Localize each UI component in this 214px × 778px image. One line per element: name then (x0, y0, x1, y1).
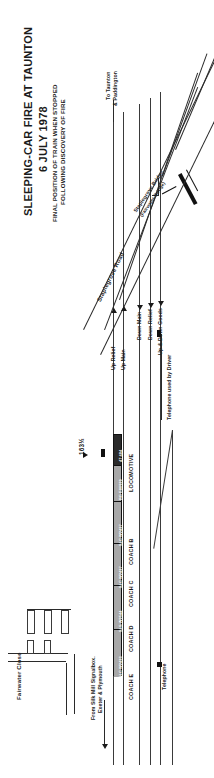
track-arrow-down-main (137, 305, 143, 310)
direction-to-label-line1: To Taunton (105, 72, 111, 100)
train-number-locomotive: 47 484 (118, 450, 123, 462)
direction-from-arrowhead (102, 744, 108, 749)
train-caption-coach-c: COACH C (128, 580, 134, 607)
rail-siding-taper (153, 430, 173, 549)
milepost-pointer (83, 452, 88, 458)
train-caption-locomotive: LOCOMOTIVE (128, 454, 134, 492)
track-arrow-up-main (121, 306, 127, 311)
building (44, 640, 51, 654)
fairwater-road-curve (66, 663, 67, 715)
train-caption-coach-e: COACH E (128, 674, 134, 700)
building (27, 640, 34, 654)
direction-from-shaft (104, 700, 105, 746)
building (61, 610, 69, 634)
page-subtitle-line2: FOLLOWING DISCOVERY OF FIRE (59, 99, 66, 205)
page-title-line1: SLEEPING-CAR FIRE AT TAUNTON (22, 27, 34, 216)
direction-from-label-line1: From Silk Mill Signalbox. (90, 656, 96, 720)
track-arrow-up-relief (111, 308, 117, 313)
fairwater-close-label: Fairwater Close (16, 652, 22, 700)
bridge-abutment (162, 186, 177, 194)
train-number-coach-c: SLC W2437 (118, 566, 123, 588)
train-number-coach-d: SLS W2544 (118, 611, 123, 632)
direction-to-label-line2: & Paddington (112, 71, 118, 106)
track-label-down-relief: Down Relief (147, 309, 153, 340)
direction-from-label-line2: Exeter & Plymouth (97, 665, 103, 713)
rail-diagonal-crossover (162, 54, 207, 176)
page-title-line2: 6 JULY 1978 (37, 106, 49, 172)
fairwater-road-curve-outer (74, 654, 75, 714)
train-number-coach-e: SLC W2433 (118, 656, 123, 678)
track-arrow-down-relief (148, 303, 154, 308)
legend-telephone-label: Telephone (161, 664, 167, 690)
train-number-coach-b: SLC W2437 (118, 524, 123, 546)
milepost-block (101, 449, 105, 457)
diagram-page: SLEEPING-CAR FIRE AT TAUNTON 6 JULY 1978… (0, 0, 214, 778)
driver-telephone-label: Telephone used by Driver (166, 355, 172, 420)
track-label-up-relief: Up Relief (110, 347, 116, 370)
train-caption-coach-d: COACH D (128, 625, 134, 652)
rail-siding-stub-a (172, 430, 173, 765)
building (44, 610, 52, 634)
rail-up-main (123, 112, 124, 765)
track-label-down-main: Down Main (136, 312, 142, 340)
building-terrace-line (27, 609, 71, 610)
train-caption-coach-b: COACH B (128, 538, 134, 565)
train-consist (113, 434, 123, 676)
page-subtitle-line1: FINAL POSITION OF TRAIN WHEN STOPPED (51, 84, 58, 222)
track-arrow-up-down-goods (158, 301, 164, 306)
train-number-bg: BG E80939 (118, 479, 123, 500)
driver-telephone-leader (161, 334, 162, 420)
track-label-up-main: Up Main (120, 349, 126, 370)
building (27, 610, 35, 634)
